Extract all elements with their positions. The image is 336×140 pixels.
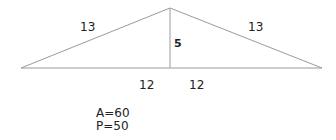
height-label: 5	[174, 38, 182, 50]
triangle-figure	[0, 0, 336, 140]
perimeter-formula: P=50	[96, 120, 129, 133]
left-side-label: 13	[80, 21, 95, 33]
right-side-label: 13	[248, 21, 263, 33]
triangle-outline	[21, 8, 322, 68]
base-left-label: 12	[139, 79, 154, 91]
base-right-label: 12	[189, 79, 204, 91]
